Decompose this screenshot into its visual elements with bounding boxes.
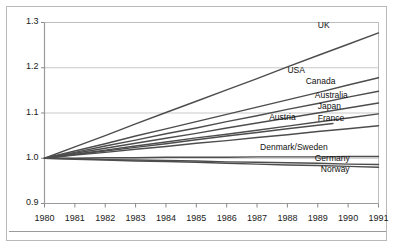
series-lines-group [45, 33, 379, 167]
series-label-japan: Japan [318, 101, 341, 111]
x-tick-label-1986: 1986 [211, 213, 243, 223]
x-tick-label-1988: 1988 [271, 213, 303, 223]
series-label-canada: Canada [306, 76, 336, 86]
x-tick-label-1989: 1989 [302, 213, 334, 223]
series-line-austria[interactable] [45, 123, 333, 158]
chart-figure: 0.91.01.11.21.3 198019811982198319841985… [0, 0, 395, 249]
x-tick-label-1983: 1983 [120, 213, 152, 223]
series-label-usa: USA [287, 65, 304, 75]
x-tick-label-1984: 1984 [150, 213, 182, 223]
x-tick-label-1987: 1987 [241, 213, 273, 223]
x-tick-label-1981: 1981 [59, 213, 91, 223]
series-label-austria: Austria [269, 112, 295, 122]
y-tick-label-0.9: 0.9 [26, 197, 39, 207]
x-tick-label-1982: 1982 [89, 213, 121, 223]
x-tick-label-1990: 1990 [332, 213, 364, 223]
x-tick-label-1991: 1991 [363, 213, 395, 223]
y-tick-label-1.1: 1.1 [26, 107, 39, 117]
x-tick-label-1980: 1980 [29, 213, 61, 223]
series-label-denmark-sweden: Denmark/Sweden [260, 142, 328, 152]
series-label-norway: Norway [321, 164, 350, 174]
y-tick-label-1.0: 1.0 [26, 152, 39, 162]
series-label-germany: Germany [315, 153, 350, 163]
line-chart-canvas [0, 0, 395, 249]
y-tick-label-1.3: 1.3 [26, 16, 39, 26]
x-tick-label-1985: 1985 [180, 213, 212, 223]
y-tick-label-1.2: 1.2 [26, 61, 39, 71]
series-label-uk: UK [318, 20, 330, 30]
series-label-australia: Australia [315, 90, 348, 100]
series-label-france: France [318, 113, 344, 123]
